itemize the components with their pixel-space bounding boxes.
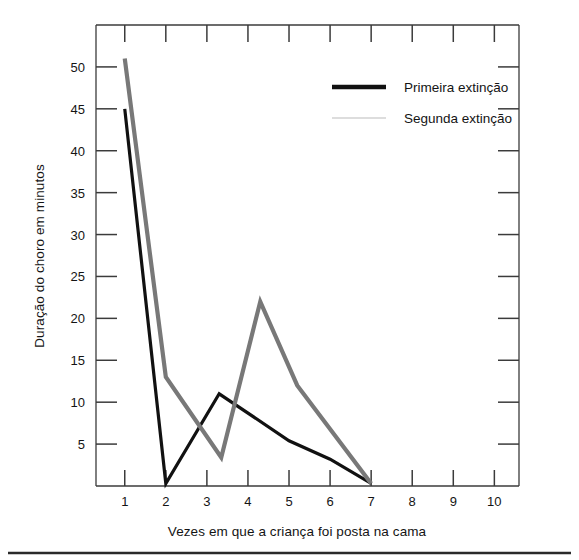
x-axis-title: Vezes em que a criança foi posta na cama [168,524,427,539]
x-tick-label-2: 2 [162,494,169,509]
x-tick-label-7: 7 [368,494,375,509]
y-tick-label-45: 45 [71,102,85,117]
y-tick-label-25: 25 [71,269,85,284]
y-axis-left-ticks [96,67,117,444]
x-tick-label-10: 10 [487,494,501,509]
y-tick-label-5: 5 [78,437,85,452]
x-axis-bottom-ticks [125,470,495,486]
y-axis-tick-labels: 5101520253035404550 [71,60,85,452]
x-axis-tick-labels: 12345678910 [121,494,501,509]
y-tick-label-30: 30 [71,228,85,243]
series-line-primeira-extincao [125,109,371,484]
x-tick-label-4: 4 [244,494,251,509]
x-tick-label-5: 5 [285,494,292,509]
x-axis-top-ticks [125,25,495,42]
y-tick-label-50: 50 [71,60,85,75]
y-tick-label-20: 20 [71,311,85,326]
chart-figure: 12345678910 5101520253035404550 Vezes em… [0,0,579,560]
legend-label-primeira-extincao: Primeira extinção [404,80,508,95]
x-tick-label-6: 6 [326,494,333,509]
x-tick-label-8: 8 [409,494,416,509]
x-tick-label-1: 1 [121,494,128,509]
y-tick-label-10: 10 [71,395,85,410]
legend-label-segunda-extincao: Segunda extinção [404,111,512,126]
x-tick-label-9: 9 [450,494,457,509]
series-line-segunda-extincao [125,59,371,484]
line-chart-canvas: 12345678910 5101520253035404550 Vezes em… [0,0,579,560]
x-tick-label-3: 3 [203,494,210,509]
y-tick-label-40: 40 [71,144,85,159]
y-tick-label-15: 15 [71,353,85,368]
y-axis-title: Duração do choro em minutos [32,164,47,348]
y-tick-label-35: 35 [71,186,85,201]
data-series-layer [125,59,371,484]
chart-legend: Primeira extinçãoSegunda extinção [332,80,512,126]
